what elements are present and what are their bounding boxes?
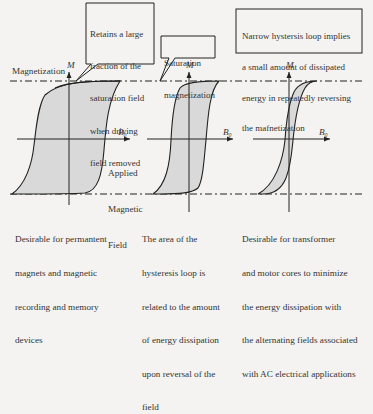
b0-axis-label-right: B₀ <box>319 127 328 138</box>
callout-line: saturation field <box>90 93 144 104</box>
callout-line: fraction of the <box>90 61 144 72</box>
callout-line: the mafnetization <box>242 123 351 133</box>
callout-line: magnetization <box>164 90 215 101</box>
b0-axis-label-left: B₀ <box>118 127 127 138</box>
caption-right: Desirable for transformer and motor core… <box>242 212 358 391</box>
callout-line: a small amount of dissipated <box>242 62 351 72</box>
b0-axis-label-middle: B₀ <box>223 127 232 138</box>
caption-middle: The area of the hysteresis loop is relat… <box>142 212 220 414</box>
m-axis-label-left: M <box>67 60 75 71</box>
m-axis-label-middle: M <box>186 60 194 71</box>
m-axis-label-right: M <box>286 60 294 71</box>
applied-field-label: Applied Magnetic Field <box>108 143 143 263</box>
callout-line: energy in repeatedly reversing <box>242 93 351 103</box>
callout-saturation-text: Saturation magnetization <box>164 37 215 111</box>
callout-line: Retains a large <box>90 29 144 40</box>
magnetization-label: Magnetization <box>12 66 65 77</box>
callout-narrow-loop-text: Narrow hystersis loop implies a small am… <box>242 11 351 144</box>
caption-left: Desirable for permantent magnets and mag… <box>15 212 107 358</box>
callout-line: Narrow hystersis loop implies <box>242 31 351 41</box>
